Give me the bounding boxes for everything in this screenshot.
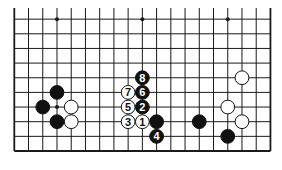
move-number: 2 xyxy=(139,101,145,113)
white-stone xyxy=(64,100,78,114)
go-board-diagram: 12345678 xyxy=(0,0,282,170)
black-stone xyxy=(192,115,206,129)
stone-disc xyxy=(50,86,64,100)
white-stone-move-3: 3 xyxy=(121,115,135,129)
stone-disc xyxy=(235,71,249,85)
stone-disc xyxy=(36,100,50,114)
black-stone xyxy=(36,100,50,114)
black-stone-move-8: 8 xyxy=(135,71,149,85)
stone-disc xyxy=(50,115,64,129)
black-stone xyxy=(221,129,235,143)
stone-disc xyxy=(192,115,206,129)
star-point xyxy=(226,17,230,21)
white-stone xyxy=(235,115,249,129)
white-stone xyxy=(64,115,78,129)
star-point xyxy=(55,17,59,21)
stone-disc xyxy=(235,115,249,129)
move-number: 1 xyxy=(139,116,145,128)
black-stone-move-6: 6 xyxy=(135,86,149,100)
stone-disc xyxy=(64,115,78,129)
white-stone xyxy=(221,100,235,114)
white-stone-move-7: 7 xyxy=(121,86,135,100)
stone-disc xyxy=(221,129,235,143)
black-stone xyxy=(150,115,164,129)
star-point xyxy=(55,105,59,109)
move-number: 6 xyxy=(139,86,145,98)
move-number: 5 xyxy=(125,101,131,113)
star-point xyxy=(140,17,144,21)
move-number: 4 xyxy=(154,130,161,142)
white-stone-move-5: 5 xyxy=(121,100,135,114)
white-stone xyxy=(235,71,249,85)
white-stone-move-1: 1 xyxy=(135,115,149,129)
black-stone-move-2: 2 xyxy=(135,100,149,114)
black-stone-move-4: 4 xyxy=(150,129,164,143)
move-number: 7 xyxy=(125,86,131,98)
stone-disc xyxy=(221,100,235,114)
stone-disc xyxy=(64,100,78,114)
black-stone xyxy=(50,115,64,129)
move-number: 3 xyxy=(125,116,131,128)
black-stone xyxy=(50,86,64,100)
move-number: 8 xyxy=(139,72,145,84)
stone-disc xyxy=(150,115,164,129)
